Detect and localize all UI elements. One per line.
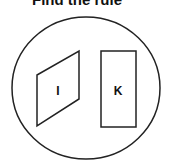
enclosing-circle [12, 17, 160, 159]
rectangle-label: K [114, 84, 123, 98]
diagram-canvas: I K [0, 0, 169, 167]
parallelogram-label: I [56, 84, 59, 98]
